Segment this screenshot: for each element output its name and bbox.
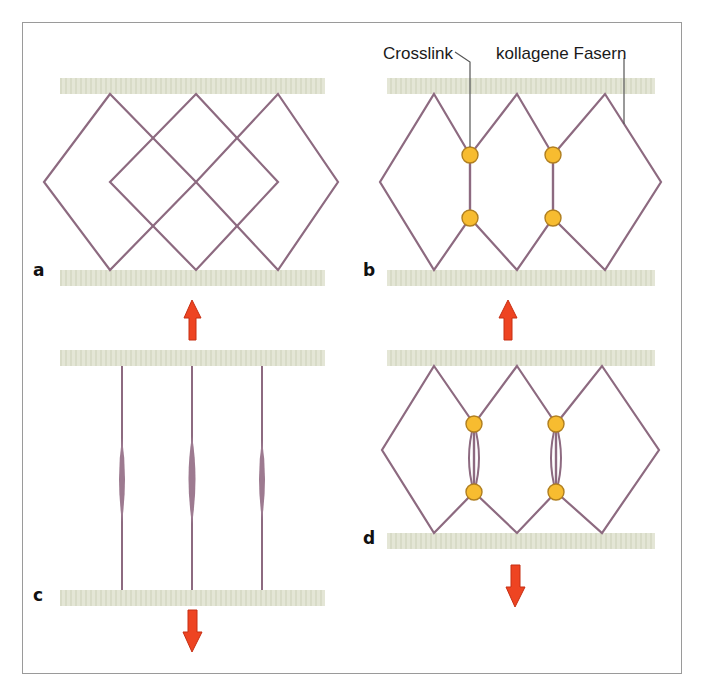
panel-d-graphic (382, 350, 659, 549)
spindle (259, 440, 265, 520)
panel-a-bottom-band (60, 270, 325, 286)
crosslink-dot (548, 484, 564, 500)
panel-c-fiber-spindles (119, 436, 265, 524)
callout-kollagene-fasern: kollagene Fasern (496, 44, 626, 64)
panel-label-b: b (363, 260, 375, 280)
crosslink-dot (462, 210, 478, 226)
panel-c-graphic (60, 350, 325, 606)
panel-b-top-band (387, 78, 655, 94)
panel-b-crosslinks (462, 147, 561, 226)
panel-label-a: a (33, 260, 44, 280)
crosslink-dot (545, 147, 561, 163)
panel-b-graphic (380, 52, 661, 286)
crosslink-dot (466, 484, 482, 500)
panel-d-fibers (382, 366, 659, 533)
figure-root: Crosslink kollagene Fasern a b c d (0, 0, 704, 696)
panel-b-arrow (499, 300, 517, 340)
panel-b-bottom-band (387, 270, 655, 286)
panel-a-top-band (60, 78, 325, 94)
panel-label-d: d (363, 528, 375, 548)
figure-artwork (0, 0, 704, 696)
panel-c-arrow (183, 610, 202, 652)
panel-a-graphic (44, 78, 338, 286)
panel-d-crosslinks (466, 416, 564, 500)
spindle (119, 438, 125, 522)
panel-d-arrow (506, 565, 525, 607)
crosslink-dot (548, 416, 564, 432)
crosslink-dot (545, 210, 561, 226)
panel-a-arrow (184, 300, 201, 340)
panel-label-c: c (33, 585, 43, 605)
callout-crosslink: Crosslink (383, 44, 453, 64)
panel-a-fibers (44, 94, 338, 270)
panel-b-fibers (380, 94, 661, 270)
crosslink-dot (466, 416, 482, 432)
panel-d-bottom-band (387, 533, 655, 549)
spindle (189, 436, 196, 524)
panel-d-top-band (387, 350, 655, 366)
panel-c-top-band (60, 350, 325, 366)
panel-d-stretched-loops (469, 424, 561, 492)
crosslink-dot (462, 147, 478, 163)
panel-c-bottom-band (60, 590, 325, 606)
